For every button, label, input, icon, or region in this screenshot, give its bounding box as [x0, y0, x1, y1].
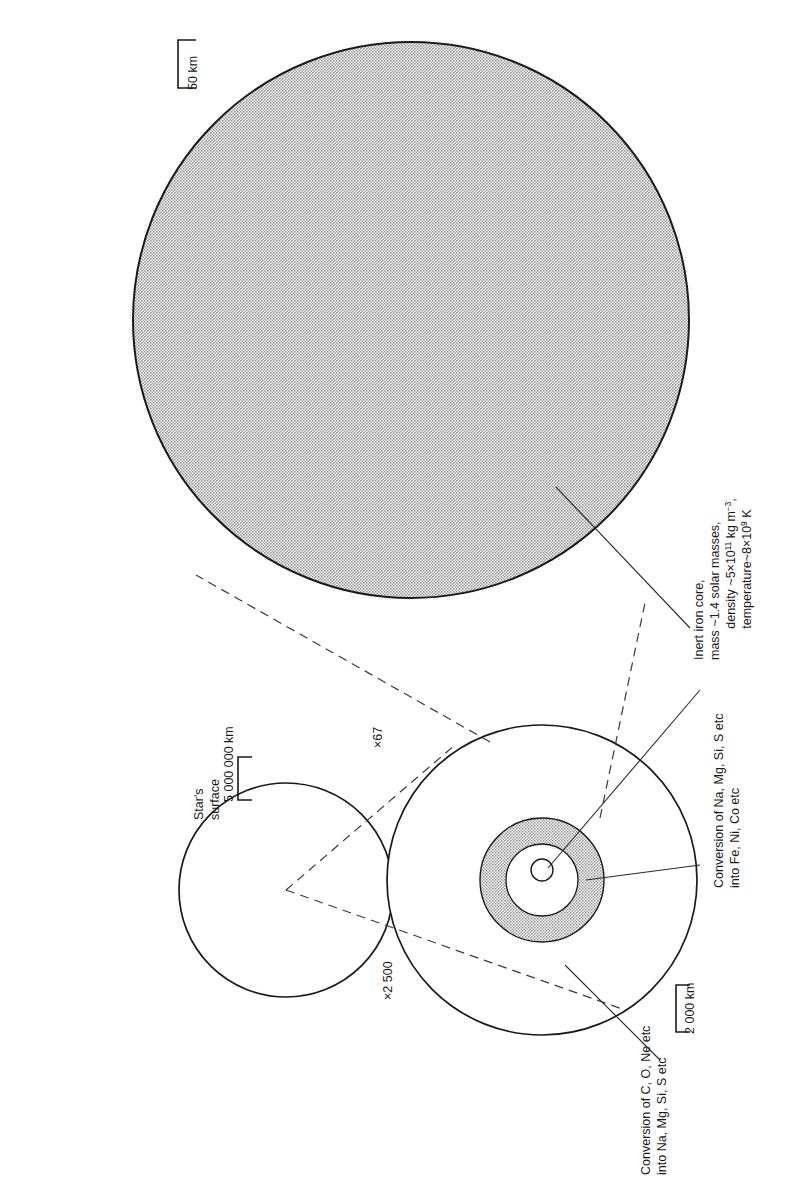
carbon-shell-annotation-line-2: into Na, Mg, Si, S etc	[655, 1058, 669, 1175]
scale-bar-5000000km-label: 5 000 000 km	[222, 726, 236, 802]
scale-bar-50km: 50 km	[178, 40, 200, 90]
iron-core-magnified-circle	[133, 42, 689, 598]
star-surface-label-line-2: surface	[208, 779, 222, 820]
silicon-shell-annotation-line-2: into Fe, Ni, Co etc	[728, 788, 742, 888]
carbon-shell-annotation-line-1: Conversion of C, O, Ne etc	[639, 1026, 653, 1175]
iron-core-annotation-line-4: temperature~8×109 K	[740, 485, 754, 660]
iron-core-small-circle	[531, 859, 553, 881]
burning-shell-circles	[387, 725, 697, 1035]
scale-bar-50km-label: 50 km	[186, 56, 200, 90]
scale-bar-2000km-label: 2 000 km	[683, 983, 697, 1034]
silicon-shell-annotation: Conversion of Na, Mg, Si, S etc into Fe,…	[712, 714, 742, 888]
star-surface-label-line-1: Star's	[192, 788, 206, 820]
star-structure-diagram: 50 km Star's surface 5 000 000 km	[0, 0, 804, 1184]
silicon-shell-annotation-line-1: Conversion of Na, Mg, Si, S etc	[712, 714, 726, 888]
figure-canvas: 50 km Star's surface 5 000 000 km	[0, 0, 804, 1184]
iron-core-annotation-line-2: mass ~1.4 solar masses,	[708, 521, 722, 660]
iron-core-annotation-line-1: Inert iron core,	[692, 579, 706, 660]
magnification-label-2500: ×2 500	[381, 961, 395, 1000]
iron-core-annotation: Inert iron core, mass ~1.4 solar masses,…	[692, 474, 754, 660]
star-surface-label: Star's surface	[192, 779, 222, 820]
scale-bar-2000km: 2 000 km	[676, 983, 697, 1034]
magnification-label-67: ×67	[371, 727, 385, 748]
iron-core-annotation-line-3: density ~5×1011 kg m−3,	[724, 474, 738, 660]
carbon-shell-annotation: Conversion of C, O, Ne etc into Na, Mg, …	[639, 1026, 669, 1175]
